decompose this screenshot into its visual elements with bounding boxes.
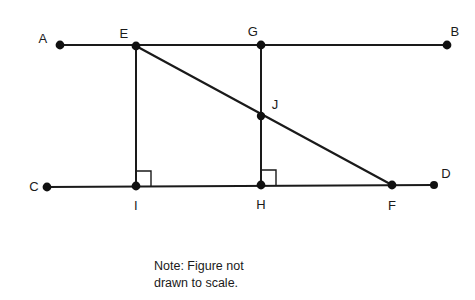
figure-note-line-2: drawn to scale. [154, 275, 354, 292]
point-label-g: G [248, 25, 258, 38]
point-label-i: I [134, 199, 138, 212]
point-label-h: H [256, 198, 266, 211]
point-label-d: D [441, 167, 451, 180]
vertex-dot-i [132, 182, 141, 191]
point-label-f: F [388, 199, 396, 212]
geometry-canvas [0, 0, 475, 300]
point-label-b: B [451, 25, 460, 38]
figure-note-line-1: Note: Figure not [154, 258, 354, 275]
geometry-figure: A E G B J C I H F D Note: Figure not dra… [0, 0, 475, 300]
vertex-dot-h [257, 181, 266, 190]
vertex-dot-g [257, 41, 266, 50]
vertex-dot-j [257, 112, 265, 120]
line-cd [47, 185, 434, 187]
point-label-j: J [272, 98, 279, 111]
figure-note: Note: Figure not drawn to scale. [154, 258, 354, 291]
vertex-dot-c [43, 183, 52, 192]
vertex-dot-a [56, 41, 65, 50]
vertex-dot-f [388, 181, 397, 190]
point-label-e: E [120, 27, 129, 40]
vertex-dot-d [430, 181, 438, 189]
vertex-dot-e [132, 42, 141, 51]
point-label-a: A [39, 32, 48, 45]
vertex-dot-b [443, 41, 452, 50]
point-label-c: C [29, 180, 39, 193]
